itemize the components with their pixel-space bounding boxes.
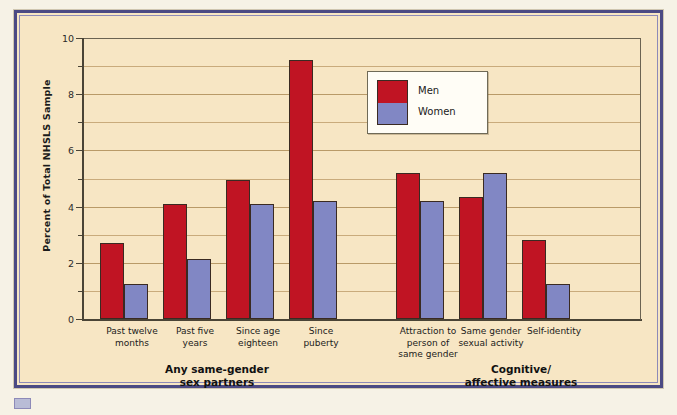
category-label-6: Self-identity [506, 326, 602, 338]
bar-men-1 [163, 204, 187, 319]
gridline-9 [82, 66, 640, 67]
bar-men-2 [226, 180, 250, 319]
gridline-8 [82, 94, 640, 95]
gridline-10 [82, 38, 640, 39]
group-title-cognitive-affective-measures: Cognitive/ affective measures [416, 363, 626, 389]
caption-marker-icon [14, 398, 31, 409]
y-tick-label-2: 2 [68, 257, 74, 268]
y-tick-label-0: 0 [68, 314, 74, 325]
y-tick-label-10: 10 [62, 33, 74, 44]
category-label-3: Since puberty [273, 326, 369, 349]
legend-swatch-men [378, 81, 407, 103]
y-tick-10 [76, 38, 83, 39]
y-tick-0 [76, 319, 83, 320]
bar-women-4 [420, 201, 444, 319]
bar-women-1 [187, 259, 211, 319]
gridline-6 [82, 150, 640, 151]
bar-men-4 [396, 173, 420, 319]
bar-men-3 [289, 60, 313, 319]
gridline-7 [82, 122, 640, 123]
figure-frame: Percent of Total NHSLS Sample 0246810 Me… [14, 10, 663, 388]
figure-inner-border: Percent of Total NHSLS Sample 0246810 Me… [19, 15, 658, 383]
y-tick-2 [76, 263, 83, 264]
y-tick-7 [78, 122, 83, 123]
y-tick-5 [78, 179, 83, 180]
bar-men-5 [459, 197, 483, 319]
y-tick-4 [76, 207, 83, 208]
y-tick-label-6: 6 [68, 145, 74, 156]
bar-women-3 [313, 201, 337, 319]
scanned-page: Percent of Total NHSLS Sample 0246810 Me… [0, 0, 677, 415]
gridline-5 [82, 179, 640, 180]
y-tick-1 [78, 291, 83, 292]
plot-area [82, 38, 640, 319]
legend-swatch-stack [377, 80, 408, 125]
bar-women-2 [250, 204, 274, 319]
bar-women-5 [483, 173, 507, 319]
y-tick-8 [76, 94, 83, 95]
legend-swatch-women [378, 103, 407, 125]
group-title-same-gender-sex-partners: Any same-gender sex partners [112, 363, 322, 389]
y-tick-label-4: 4 [68, 201, 74, 212]
y-axis-tick-labels: 0246810 [50, 38, 74, 319]
legend-label-women: Women [418, 106, 456, 117]
bar-men-6 [522, 240, 546, 319]
x-axis-line [82, 319, 642, 321]
y-tick-label-8: 8 [68, 89, 74, 100]
y-tick-9 [78, 66, 83, 67]
legend: Men Women [367, 71, 488, 134]
bar-men-0 [100, 243, 124, 319]
bar-women-6 [546, 284, 570, 319]
y-tick-6 [76, 150, 83, 151]
y-tick-3 [78, 235, 83, 236]
plot-right-border [640, 38, 641, 320]
bar-women-0 [124, 284, 148, 319]
legend-label-men: Men [418, 85, 439, 96]
